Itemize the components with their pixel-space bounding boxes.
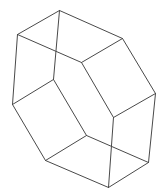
wireframe-figure [0,0,163,194]
edge-group [13,11,156,188]
octagonal-prism-wireframe [0,0,163,194]
edge-upper_left-inner_top_center [18,35,82,63]
edge-top-upper_right [60,11,123,39]
edge-inner_right-bottom [109,118,114,188]
edge-bottom_left-bottom [46,161,109,188]
edge-right-inner_right [114,94,156,118]
edge-inner_bottom-bottom_right [87,136,149,163]
edge-left-bottom_left [13,105,46,161]
edge-inner_bottom-bottom_left [46,136,87,161]
edge-upper_right-inner_top_center [82,39,123,63]
edge-inner_left_top-left [13,80,54,105]
edge-inner_left_top-inner_bottom [54,80,87,136]
edge-top-upper_left [18,11,60,35]
edge-top-inner_left_top [54,11,60,80]
edge-bottom_right-bottom [109,163,149,188]
edge-upper_right-right [123,39,156,94]
edge-upper_left-left [13,35,18,105]
edge-inner_top_center-inner_right [82,63,114,118]
edge-right-bottom_right [149,94,156,163]
